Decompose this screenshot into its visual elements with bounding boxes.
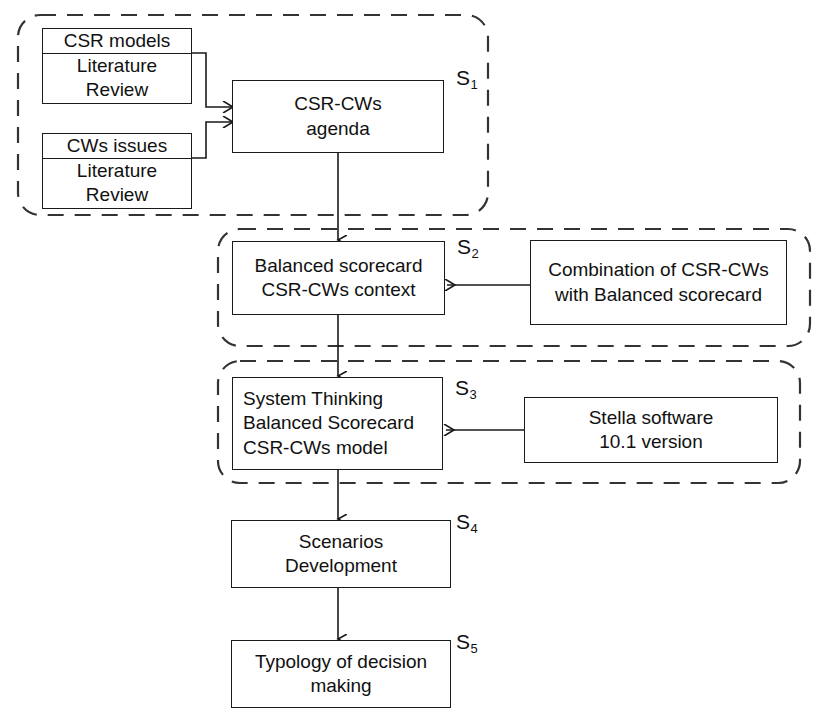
node-cws-issues-line-1: Literature xyxy=(77,159,157,184)
node-cws-issues-body: Literature Review xyxy=(43,159,191,208)
node-csr-cws-agenda[interactable]: CSR-CWs agenda xyxy=(232,80,444,153)
node-typology[interactable]: Typology of decision making xyxy=(231,640,451,708)
node-stella-line-2: 10.1 version xyxy=(525,430,777,454)
stage-label-s3: S3 xyxy=(455,376,476,400)
node-combination-line-1: Combination of CSR-CWs xyxy=(531,258,786,282)
node-csr-models-header: CSR models xyxy=(43,29,191,54)
node-system-thinking-line-3: CSR-CWs model xyxy=(243,436,442,460)
node-stella-line-1: Stella software xyxy=(525,406,777,430)
node-scenarios-line-1: Scenarios xyxy=(232,530,450,554)
stage-label-s2: S2 xyxy=(457,235,478,259)
diagram-canvas: CSR models Literature Review CWs issues … xyxy=(0,0,817,723)
node-csr-models-body: Literature Review xyxy=(43,54,191,103)
stage-label-s4-index: 4 xyxy=(471,521,478,536)
node-combination-line-2: with Balanced scorecard xyxy=(531,283,786,307)
stage-label-s2-letter: S xyxy=(457,235,471,258)
node-balanced-scorecard[interactable]: Balanced scorecard CSR-CWs context xyxy=(232,241,445,315)
stage-label-s5-letter: S xyxy=(456,630,470,653)
node-scenarios[interactable]: Scenarios Development xyxy=(231,520,451,588)
node-cws-issues[interactable]: CWs issues Literature Review xyxy=(42,133,192,209)
node-system-thinking-line-1: System Thinking xyxy=(243,387,442,411)
node-system-thinking[interactable]: System Thinking Balanced Scorecard CSR-C… xyxy=(232,377,443,470)
stage-label-s1-letter: S xyxy=(456,66,470,89)
stage-label-s5-index: 5 xyxy=(471,641,478,656)
stage-label-s1-index: 1 xyxy=(471,77,478,92)
node-balanced-scorecard-line-2: CSR-CWs context xyxy=(233,278,444,302)
node-stella[interactable]: Stella software 10.1 version xyxy=(524,397,778,463)
node-csr-models[interactable]: CSR models Literature Review xyxy=(42,28,192,104)
node-cws-issues-line-2: Review xyxy=(86,183,148,208)
node-scenarios-line-2: Development xyxy=(232,554,450,578)
stage-label-s4-letter: S xyxy=(456,510,470,533)
connector-cws-issues-to-agenda xyxy=(192,122,232,158)
node-csr-cws-agenda-line-2: agenda xyxy=(233,117,443,141)
stage-label-s1: S1 xyxy=(456,66,477,90)
node-system-thinking-line-2: Balanced Scorecard xyxy=(243,411,442,435)
node-typology-line-2: making xyxy=(232,674,450,698)
node-csr-models-line-2: Review xyxy=(86,78,148,103)
node-balanced-scorecard-line-1: Balanced scorecard xyxy=(233,254,444,278)
node-combination[interactable]: Combination of CSR-CWs with Balanced sco… xyxy=(530,240,787,325)
stage-label-s4: S4 xyxy=(456,510,477,534)
stage-label-s3-letter: S xyxy=(455,376,469,399)
connector-csr-models-to-agenda xyxy=(192,53,232,107)
node-typology-line-1: Typology of decision xyxy=(232,650,450,674)
stage-label-s3-index: 3 xyxy=(470,387,477,402)
node-csr-models-line-1: Literature xyxy=(77,54,157,79)
node-csr-cws-agenda-line-1: CSR-CWs xyxy=(233,92,443,116)
node-cws-issues-header: CWs issues xyxy=(43,134,191,159)
stage-label-s5: S5 xyxy=(456,630,477,654)
stage-label-s2-index: 2 xyxy=(472,246,479,261)
